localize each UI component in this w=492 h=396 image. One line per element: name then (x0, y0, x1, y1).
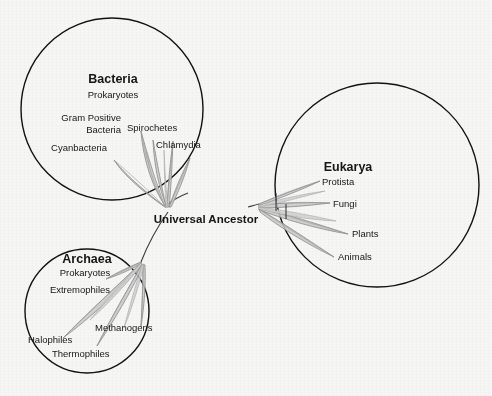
taxon-label-animals: Animals (338, 252, 372, 262)
taxon-label-gram-positive: Gram Positive (61, 113, 121, 123)
taxon-label-spirochetes: Spirochetes (127, 123, 177, 133)
eukarya-branches (259, 181, 348, 257)
eukarya-domain-label: Eukarya (324, 161, 373, 174)
bacteria-domain-label: Bacteria (88, 73, 137, 86)
taxon-label-fungi: Fungi (333, 199, 357, 209)
bacteria-domain-circle (21, 18, 203, 200)
figure-canvas: Bacteria Prokaryotes Gram Positive Bacte… (0, 0, 492, 396)
taxon-label-extremophiles: Extremophiles (50, 285, 110, 295)
taxon-label-methanogens: Methanogens (95, 323, 153, 333)
taxon-label-chlamydia: Chlamydia (156, 140, 201, 150)
bacteria-subtitle-label: Prokaryotes (88, 90, 139, 100)
universal-ancestor-label: Universal Ancestor (154, 214, 258, 226)
taxon-label-thermophiles: Thermophiles (52, 349, 110, 359)
taxon-label-cyanbacteria: Cyanbacteria (51, 143, 107, 153)
taxon-label-bacteria: Bacteria (86, 125, 121, 135)
eukarya-domain-circle (275, 83, 479, 287)
archaea-subtitle-label: Prokaryotes (60, 268, 111, 278)
archaea-domain-label: Archaea (62, 253, 111, 266)
root-stems (141, 193, 259, 262)
taxon-label-plants: Plants (352, 229, 378, 239)
tree-of-life-svg (0, 0, 492, 396)
taxon-label-halophiles: Halophiles (28, 335, 72, 345)
taxon-label-protista: Protista (322, 177, 354, 187)
